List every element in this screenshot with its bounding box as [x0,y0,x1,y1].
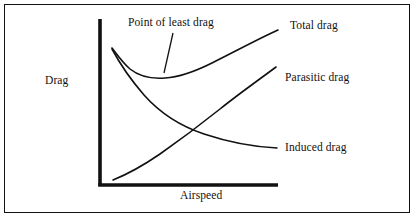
y-axis-label: Drag [45,75,68,87]
annotation-label-point-of-least-drag: Point of least drag [128,17,214,29]
curve-label-total-drag: Total drag [290,20,338,32]
curves-group [112,30,278,180]
annotation-leader-line [164,33,173,73]
x-axis-label: Airspeed [180,190,222,202]
plot-canvas [0,0,416,219]
axes-group [98,19,278,186]
curve-label-induced-drag: Induced drag [285,142,347,154]
drag-vs-airspeed-figure: Point of least drag Total drag Parasitic… [0,0,416,219]
parasitic-drag-curve [113,67,276,180]
curve-label-parasitic-drag: Parasitic drag [285,72,349,84]
total-drag-curve [112,30,278,78]
induced-drag-curve [112,49,277,148]
